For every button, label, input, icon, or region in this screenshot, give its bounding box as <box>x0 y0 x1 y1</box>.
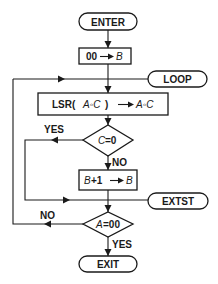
process-shift-op: LSR( <box>52 99 76 110</box>
arrow-head-icon <box>44 221 51 228</box>
terminal-enter-label: ENTER <box>91 17 126 28</box>
arrow-head-icon <box>63 197 70 204</box>
process-init: 00 B <box>79 48 131 64</box>
arrow-head-icon <box>105 205 112 212</box>
arrow-head-icon <box>105 41 112 48</box>
decision-a-zero: A =00 <box>83 212 133 237</box>
terminal-exit: EXIT <box>79 256 137 272</box>
process-increment-rest: +1 <box>91 175 103 186</box>
arrow-head-icon <box>58 76 65 83</box>
terminal-extst: EXTST <box>148 193 208 209</box>
process-increment-rhs: B <box>126 175 133 186</box>
edge-label-testa-no: NO <box>40 210 55 221</box>
arrow-head-icon <box>105 86 112 93</box>
terminal-enter: ENTER <box>79 13 137 30</box>
edge-label-testc-yes: YES <box>44 124 64 135</box>
process-increment-var: B <box>84 175 91 186</box>
process-increment: B +1 B <box>79 170 137 190</box>
flowchart-canvas: ENTER 00 B LOOP LSR( A◦C ) A◦C C =0 YES … <box>0 0 218 284</box>
terminal-loop: LOOP <box>148 71 207 87</box>
terminal-exit-label: EXIT <box>97 259 119 270</box>
edge-label-testc-no: NO <box>112 157 127 168</box>
process-shift-rhs: A◦C <box>135 99 154 110</box>
decision-a-op: =00 <box>103 219 120 230</box>
process-init-lhs: 00 <box>86 51 98 62</box>
decision-c-op: =0 <box>105 135 117 146</box>
process-shift: LSR( A◦C ) A◦C <box>38 93 168 115</box>
arrow-head-icon <box>105 249 112 256</box>
process-shift-var: A◦C <box>82 99 101 110</box>
edge-label-testa-yes: YES <box>112 239 132 250</box>
terminal-extst-label: EXTST <box>162 196 194 207</box>
decision-c-zero: C =0 <box>83 125 133 156</box>
decision-a-var: A <box>95 219 103 230</box>
arrow-head-icon <box>51 137 58 144</box>
process-shift-close: ) <box>105 99 108 110</box>
process-init-rhs: B <box>116 51 123 62</box>
arrow-head-icon <box>105 163 112 170</box>
terminal-loop-label: LOOP <box>163 74 192 85</box>
arrow-head-icon <box>105 118 112 125</box>
